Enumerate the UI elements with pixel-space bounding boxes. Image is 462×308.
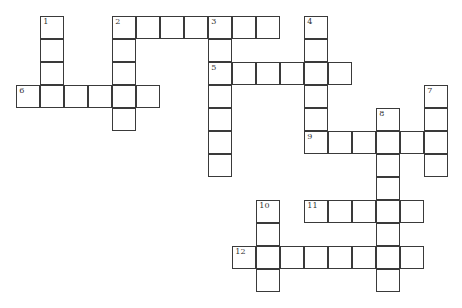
clue-number: 7 [427,87,432,95]
crossword-cell[interactable] [232,62,256,85]
crossword-cell[interactable] [304,85,328,108]
crossword-cell[interactable] [400,131,424,154]
crossword-cell[interactable] [232,16,256,39]
crossword-cell[interactable]: 11 [304,200,328,223]
crossword-cell[interactable] [208,108,232,131]
crossword-cell[interactable] [304,62,328,85]
crossword-cell[interactable] [280,62,304,85]
crossword-cell[interactable] [328,200,352,223]
crossword-cell[interactable] [136,16,160,39]
crossword-cell[interactable] [352,131,376,154]
crossword-cell[interactable] [40,39,64,62]
crossword-cell[interactable] [40,62,64,85]
crossword-cell[interactable] [328,246,352,269]
crossword-cell[interactable] [400,200,424,223]
crossword-cell[interactable] [376,223,400,246]
crossword-cell[interactable] [256,62,280,85]
crossword-cell[interactable]: 9 [304,131,328,154]
crossword-cell[interactable] [376,200,400,223]
clue-number: 2 [115,18,120,26]
crossword-cell[interactable] [184,16,208,39]
crossword-cell[interactable] [376,177,400,200]
crossword-cell[interactable] [328,131,352,154]
crossword-cell[interactable]: 10 [256,200,280,223]
crossword-cell[interactable] [328,62,352,85]
crossword-cell[interactable] [352,246,376,269]
clue-number: 4 [307,18,312,26]
clue-number: 9 [307,133,312,141]
crossword-cell[interactable]: 2 [112,16,136,39]
crossword-cell[interactable] [208,39,232,62]
crossword-cell[interactable] [352,200,376,223]
crossword-cell[interactable] [256,16,280,39]
clue-number: 12 [235,248,245,256]
clue-number: 11 [307,202,317,210]
crossword-cell[interactable] [256,223,280,246]
crossword-cell[interactable] [424,154,448,177]
clue-number: 6 [19,87,24,95]
clue-number: 10 [259,202,269,210]
crossword-cell[interactable] [136,85,160,108]
crossword-cell[interactable] [400,246,424,269]
crossword-cell[interactable] [112,39,136,62]
crossword-cell[interactable] [208,85,232,108]
clue-number: 5 [211,64,216,72]
crossword-cell[interactable]: 8 [376,108,400,131]
crossword-cell[interactable] [64,85,88,108]
crossword-cell[interactable] [112,108,136,131]
clue-number: 1 [43,18,48,26]
crossword-cell[interactable]: 7 [424,85,448,108]
crossword-cell[interactable] [376,269,400,292]
clue-number: 3 [211,18,216,26]
crossword-cell[interactable] [304,246,328,269]
crossword-cell[interactable] [160,16,184,39]
crossword-cell[interactable] [304,108,328,131]
crossword-cell[interactable] [424,131,448,154]
crossword-cell[interactable] [40,85,64,108]
crossword-cell[interactable] [376,154,400,177]
crossword-cell[interactable] [376,131,400,154]
crossword-cell[interactable] [424,108,448,131]
crossword-cell[interactable] [256,269,280,292]
crossword-cell[interactable] [88,85,112,108]
crossword-cell[interactable]: 6 [16,85,40,108]
crossword-cell[interactable]: 4 [304,16,328,39]
clue-number: 8 [379,110,384,118]
crossword-cell[interactable] [112,62,136,85]
crossword-grid: 123549678101112 [0,0,462,308]
crossword-cell[interactable] [256,246,280,269]
crossword-cell[interactable] [112,85,136,108]
crossword-cell[interactable] [280,246,304,269]
crossword-cell[interactable] [208,131,232,154]
crossword-cell[interactable]: 12 [232,246,256,269]
crossword-cell[interactable]: 5 [208,62,232,85]
crossword-cell[interactable]: 1 [40,16,64,39]
crossword-cell[interactable] [208,154,232,177]
crossword-cell[interactable] [304,39,328,62]
crossword-cell[interactable]: 3 [208,16,232,39]
crossword-cell[interactable] [376,246,400,269]
